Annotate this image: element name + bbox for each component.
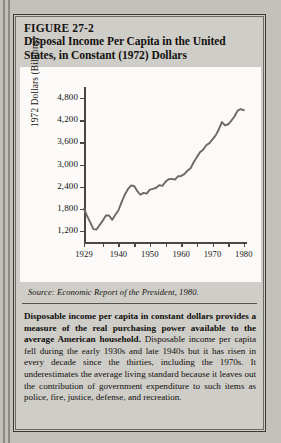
y-axis-tick-label: 3,600: [57, 136, 78, 146]
figure-caption: Disposable income per capita in constant…: [24, 311, 256, 404]
x-axis-tick: [244, 242, 245, 247]
y-axis-tick-label: 4,800: [57, 92, 78, 102]
caption-body: Disposable income per capita fell during…: [24, 334, 256, 402]
x-axis-tick-label: 1980: [235, 249, 253, 259]
y-axis-label: 1972 Dollars (Billions): [30, 37, 40, 127]
source-prefix: Source:: [28, 287, 55, 297]
y-axis-tick-label: 2,400: [57, 181, 78, 191]
figure-title-line-1: Disposal Income Per Capita in the United: [24, 35, 257, 49]
y-axis-tick-label: 1,800: [57, 203, 78, 213]
y-axis-tick-label: 1,200: [57, 225, 78, 235]
x-axis-tick: [197, 242, 198, 247]
source-text: Economic Report of the President, 1980.: [55, 287, 199, 297]
x-axis-tick: [118, 242, 119, 247]
x-axis-tick: [103, 242, 104, 247]
figure-number: FIGURE 27-2: [24, 22, 257, 35]
x-axis-tick: [181, 242, 182, 247]
figure-title-line-2: States, in Constant (1972) Dollars: [24, 49, 257, 63]
source-note: Source: Economic Report of the President…: [28, 287, 256, 297]
x-axis-tick-label: 1950: [141, 249, 159, 259]
caption-divider: [22, 303, 257, 304]
data-series-line: [84, 87, 247, 242]
x-axis-tick: [134, 242, 135, 247]
x-axis-tick: [228, 242, 229, 247]
chart-plot-area: 1972 Dollars (Billions) 1,2001,8002,4003…: [84, 87, 247, 242]
x-axis-tick: [166, 242, 167, 247]
y-axis-tick-label: 4,200: [57, 114, 78, 124]
figure-title-block: FIGURE 27-2 Disposal Income Per Capita i…: [24, 22, 257, 62]
x-axis-tick: [150, 242, 151, 247]
figure-box: FIGURE 27-2 Disposal Income Per Capita i…: [13, 14, 266, 432]
x-axis-tick-label: 1929: [75, 249, 93, 259]
page-edge-rule-outer: [3, 0, 5, 443]
x-axis-tick: [84, 242, 85, 247]
scanned-page: FIGURE 27-2 Disposal Income Per Capita i…: [0, 0, 281, 443]
page-edge-rule-inner: [8, 0, 10, 443]
x-axis-tick-label: 1970: [204, 249, 222, 259]
x-axis-tick: [213, 242, 214, 247]
y-axis-tick-label: 3,000: [57, 159, 78, 169]
x-axis-tick-label: 1960: [172, 249, 190, 259]
chart-canvas: 1972 Dollars (Billions) 1,2001,8002,4003…: [20, 67, 261, 282]
x-axis-tick-label: 1940: [110, 249, 128, 259]
